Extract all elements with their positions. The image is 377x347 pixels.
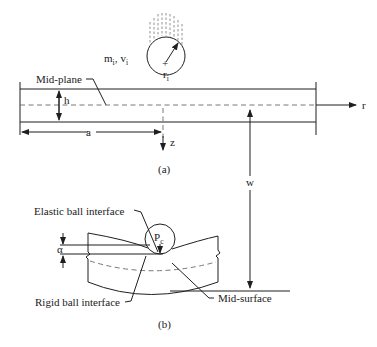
r-axis-label: r xyxy=(362,99,366,111)
caption-a: (a) xyxy=(158,163,171,176)
deformed-plate-top xyxy=(88,233,148,248)
elastic-interface-label: Elastic ball interface xyxy=(34,205,125,217)
rigid-interface-leader xyxy=(125,256,146,302)
caption-b: (b) xyxy=(158,318,171,331)
mid-plane-leader xyxy=(86,79,106,105)
thickness-label: h xyxy=(64,94,70,106)
plate-radius-label: a xyxy=(86,126,91,138)
indentation-label: α xyxy=(57,243,63,255)
mid-surface-label: Mid-surface xyxy=(218,292,272,304)
plate-right-break xyxy=(216,236,220,282)
plate-left-break xyxy=(86,233,90,282)
mass-velocity-label: mi,vi xyxy=(104,52,128,67)
z-axis-label: z xyxy=(170,136,175,148)
mid-plane-label: Mid-plane xyxy=(36,73,82,85)
rigid-interface-label: Rigid ball interface xyxy=(35,296,120,308)
panel-a: + ri mi,vi Mid-plane r h z a xyxy=(20,13,366,288)
deflection-label: w xyxy=(246,176,254,188)
impact-diagram: + ri mi,vi Mid-plane r h z a xyxy=(0,0,377,347)
mid-surface-dashed xyxy=(90,261,216,271)
panel-b: Pc α Elastic ball interface Rigid ball i… xyxy=(34,205,290,331)
